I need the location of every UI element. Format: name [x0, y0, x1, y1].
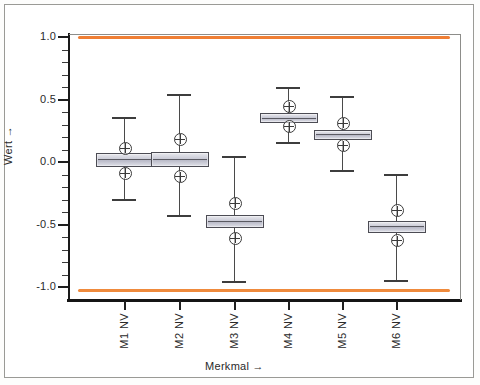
y-tick-major — [58, 161, 68, 163]
data-marker — [337, 117, 350, 130]
y-tick-minor — [62, 212, 68, 213]
reference-line — [78, 289, 450, 292]
boxplot — [366, 0, 426, 266]
boxplot — [312, 0, 372, 266]
y-tick-minor — [62, 200, 68, 201]
y-tick-minor — [62, 125, 68, 126]
data-marker — [119, 167, 132, 180]
whisker-cap-high — [276, 87, 300, 89]
whisker-cap-high — [330, 96, 354, 98]
y-tick-minor — [62, 75, 68, 76]
y-tick-minor — [62, 62, 68, 63]
data-marker — [391, 204, 404, 217]
x-tick-label: M1 NV — [118, 313, 130, 349]
whisker-cap-low — [276, 142, 300, 144]
x-tick-label: M5 NV — [336, 313, 348, 349]
y-tick-label: 0.0 — [8, 155, 56, 167]
data-marker — [119, 142, 132, 155]
data-marker — [229, 197, 242, 210]
x-tick — [342, 301, 344, 310]
whisker-cap-high — [112, 117, 136, 119]
y-axis-title: Wert → — [2, 126, 14, 165]
x-tick — [288, 301, 290, 310]
whisker-cap-low — [112, 199, 136, 201]
whisker-cap-high — [222, 156, 246, 158]
y-tick-minor — [62, 87, 68, 88]
x-tick-label: M3 NV — [228, 313, 240, 349]
data-marker — [283, 120, 296, 133]
box — [96, 153, 154, 166]
y-axis-line — [68, 33, 70, 302]
data-marker — [174, 133, 187, 146]
x-tick-label: M4 NV — [282, 313, 294, 349]
y-tick-minor — [62, 137, 68, 138]
scanned-page-background: 1.00.50.0-0.5-1.0 M1 NVM2 NVM3 NVM4 NVM5… — [0, 0, 480, 385]
whisker-cap-low — [222, 281, 246, 283]
y-tick-label: -0.5 — [8, 218, 56, 230]
whisker-cap-high — [384, 174, 408, 176]
boxplot — [94, 0, 154, 266]
whisker-cap-high — [167, 94, 191, 96]
x-tick — [396, 301, 398, 310]
whisker-cap-low — [330, 170, 354, 172]
box — [368, 221, 426, 233]
x-tick — [124, 301, 126, 310]
data-marker — [391, 234, 404, 247]
y-tick-minor — [62, 275, 68, 276]
y-tick-major — [58, 36, 68, 38]
data-marker — [337, 139, 350, 152]
y-tick-minor — [62, 187, 68, 188]
y-tick-label: -1.0 — [8, 280, 56, 292]
y-tick-major — [58, 99, 68, 101]
x-tick-label: M2 NV — [173, 313, 185, 349]
boxplot — [258, 0, 318, 266]
data-marker — [283, 100, 296, 113]
y-tick-minor — [62, 237, 68, 238]
y-tick-label: 0.5 — [8, 93, 56, 105]
x-tick — [234, 301, 236, 310]
x-axis-title: Merkmal → — [205, 360, 264, 372]
data-marker — [174, 170, 187, 183]
whisker-cap-low — [167, 215, 191, 217]
y-tick-minor — [62, 50, 68, 51]
x-tick-label: M6 NV — [390, 313, 402, 349]
x-tick — [179, 301, 181, 310]
plot-frame-right — [460, 34, 461, 300]
boxplot — [204, 0, 264, 266]
y-tick-minor — [62, 112, 68, 113]
x-axis-line — [67, 299, 462, 302]
y-tick-minor — [62, 150, 68, 151]
y-tick-minor — [62, 250, 68, 251]
y-tick-label: 1.0 — [8, 30, 56, 42]
data-marker — [229, 232, 242, 245]
y-tick-minor — [62, 262, 68, 263]
box — [151, 152, 209, 167]
boxplot — [149, 0, 209, 266]
y-tick-minor — [62, 175, 68, 176]
box — [206, 215, 264, 228]
y-tick-major — [58, 286, 68, 288]
y-tick-major — [58, 224, 68, 226]
whisker-cap-low — [384, 280, 408, 282]
